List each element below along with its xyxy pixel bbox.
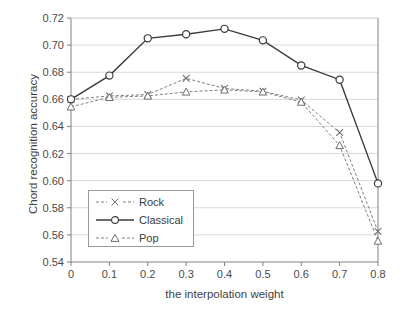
x-axis-title: the interpolation weight bbox=[71, 288, 378, 300]
legend-marker-rock-icon bbox=[95, 196, 135, 208]
legend-marker-classical-icon bbox=[95, 214, 135, 226]
chart-legend: Rock Classical Pop bbox=[88, 190, 194, 247]
legend-label-classical: Classical bbox=[139, 214, 183, 226]
legend-item-pop: Pop bbox=[95, 229, 159, 247]
legend-label-rock: Rock bbox=[139, 196, 164, 208]
legend-marker-pop-icon bbox=[95, 232, 135, 244]
legend-item-classical: Classical bbox=[95, 211, 183, 229]
chord-accuracy-line-chart: Chord recognition accuracy 0.720.700.680… bbox=[0, 0, 407, 314]
series-classical bbox=[67, 25, 381, 187]
plot-area bbox=[0, 0, 407, 314]
legend-item-rock: Rock bbox=[95, 193, 164, 211]
legend-label-pop: Pop bbox=[139, 232, 159, 244]
